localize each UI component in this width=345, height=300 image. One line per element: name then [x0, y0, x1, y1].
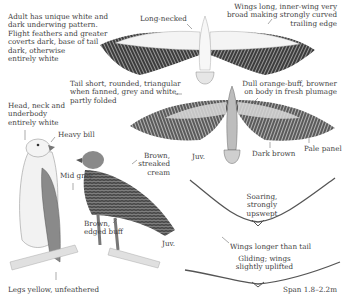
soaring-label: Soaring, strongly upswept — [232, 193, 292, 218]
tail-short-label: Tail short, rounded, triangular when fan… — [70, 80, 181, 105]
head-neck-label: Head, neck and underbody entirely white — [8, 102, 65, 127]
long-necked-label: Long-necked — [140, 15, 187, 23]
brown-streaked-label: Brown, streaked cream — [130, 152, 170, 177]
pale-panel-label: Pale panel — [304, 145, 342, 153]
mid-grey-label: Mid grey — [60, 172, 93, 180]
dark-brown-label: Dark brown — [252, 150, 295, 158]
field-guide-plate: Adult has unique white and dark underwin… — [0, 0, 345, 300]
wings-longer-label: Wings longer than tail — [230, 243, 311, 251]
adult-description-label: Adult has unique white and dark underwin… — [8, 13, 108, 63]
brown-edged-label: Brown, edged buff — [84, 220, 123, 237]
span-label: Span 1.8–2.2m — [283, 286, 337, 294]
juv-flight-label: Juv. — [192, 153, 205, 161]
juv-perched-label: Juv. — [162, 240, 175, 248]
gliding-label: Gliding; wings slightly uplifted — [232, 255, 297, 272]
heavy-bill-label: Heavy bill — [58, 131, 95, 139]
legs-label: Legs yellow, unfeathered — [8, 286, 99, 294]
adult-perched-illustration — [10, 139, 78, 270]
dull-orange-label: Dull orange-buff, browner on body in fre… — [242, 80, 337, 97]
wings-long-label: Wings long, inner-wing very broad making… — [227, 3, 337, 28]
